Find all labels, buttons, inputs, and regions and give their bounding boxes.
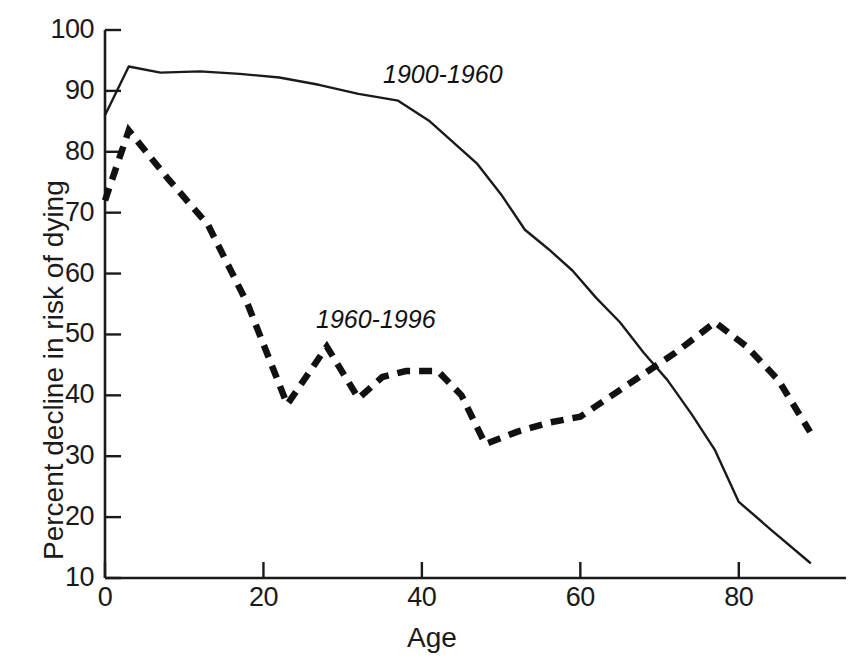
x-tick-label: 80 — [699, 582, 779, 613]
y-axis-title: Percent decline in risk of dying — [38, 180, 70, 560]
series-annotation-1900-1960: 1900-1960 — [383, 60, 503, 89]
y-tick-label: 90 — [20, 75, 94, 106]
series-annotation-1960-1996: 1960-1996 — [316, 305, 436, 334]
chart-figure: 102030405060708090100 020406080 Age Perc… — [0, 0, 864, 666]
x-tick-label: 20 — [223, 582, 303, 613]
y-tick-label: 100 — [20, 14, 94, 45]
x-tick-label: 60 — [540, 582, 620, 613]
x-axis-title: Age — [0, 622, 864, 654]
y-tick-label: 80 — [20, 136, 94, 167]
x-tick-label: 40 — [382, 582, 462, 613]
data-series-group — [105, 67, 810, 563]
data-series-dashed — [105, 130, 810, 444]
x-tick-label: 0 — [65, 582, 145, 613]
data-series-solid — [105, 67, 810, 563]
x-axis-ticks — [105, 562, 739, 578]
